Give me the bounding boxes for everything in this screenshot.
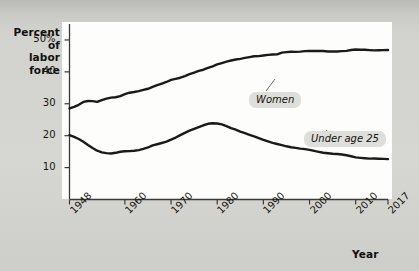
y-axis-tick-label: 20 [22, 129, 56, 140]
y-axis-tick-label: 40 [22, 65, 56, 76]
y-axis-tick-label: 30 [22, 97, 56, 108]
y-axis-tick-label: 50% [22, 33, 56, 44]
leader-line-women [266, 79, 275, 91]
y-axis-ticks [65, 40, 70, 168]
chart-figure: Percent of labor force Year 50%40302010 … [0, 0, 419, 271]
x-axis-title: Year [352, 248, 378, 261]
series-callout-women: Women [249, 92, 301, 108]
y-axis-tick-label: 10 [22, 161, 56, 172]
series-line-women [70, 50, 389, 109]
series-callout-under-age-25: Under age 25 [304, 131, 386, 147]
